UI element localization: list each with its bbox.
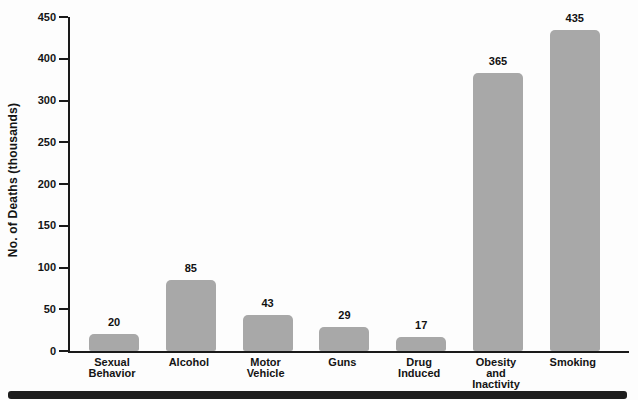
y-axis-tick bbox=[59, 225, 68, 227]
y-axis-tick bbox=[59, 308, 68, 310]
bar-smoking bbox=[550, 30, 600, 351]
bar-value-label-sexual-behavior: 20 bbox=[84, 317, 144, 328]
bar-value-label-motor-vehicle: 43 bbox=[238, 298, 298, 309]
category-label-guns: Guns bbox=[300, 357, 384, 368]
bar-value-label-alcohol: 85 bbox=[161, 263, 221, 274]
y-axis-tick-label: 450 bbox=[22, 12, 56, 23]
bar-chart-figure: No. of Deaths (thousands) 45040030025020… bbox=[0, 0, 638, 400]
y-axis-tick bbox=[59, 141, 68, 143]
bar-value-label-smoking: 435 bbox=[545, 13, 605, 24]
y-axis-tick-label: 50 bbox=[22, 304, 56, 315]
y-axis-tick-label: 100 bbox=[22, 262, 56, 273]
y-axis-tick-label: 200 bbox=[22, 179, 56, 190]
category-label-motor-vehicle: MotorVehicle bbox=[224, 357, 308, 379]
y-axis-tick-label: 0 bbox=[22, 346, 56, 357]
y-axis-tick-label: 150 bbox=[22, 220, 56, 231]
bar-obesity-and-inactivity bbox=[473, 73, 523, 351]
category-label-drug-induced: DrugInduced bbox=[377, 357, 461, 379]
bar-alcohol bbox=[166, 280, 216, 351]
category-label-smoking: Smoking bbox=[531, 357, 615, 368]
y-axis-tick-label: 300 bbox=[22, 95, 56, 106]
bar-value-label-obesity-and-inactivity: 365 bbox=[468, 56, 528, 67]
y-axis-tick bbox=[59, 58, 68, 60]
plot-area: 4504003002502001501005002085432917365435 bbox=[68, 17, 629, 353]
y-axis-tick bbox=[59, 16, 68, 18]
bar-motor-vehicle bbox=[243, 315, 293, 351]
category-label-sexual-behavior: SexualBehavior bbox=[70, 357, 154, 379]
category-label-alcohol: Alcohol bbox=[147, 357, 231, 368]
category-label-obesity-and-inactivity: ObesityandInactivity bbox=[454, 357, 538, 390]
bar-sexual-behavior bbox=[89, 334, 139, 351]
y-axis-tick bbox=[59, 350, 68, 352]
y-axis-tick bbox=[59, 183, 68, 185]
y-axis-tick-label: 250 bbox=[22, 137, 56, 148]
y-axis-tick bbox=[59, 100, 68, 102]
y-axis-tick-label: 400 bbox=[22, 53, 56, 64]
bar-drug-induced bbox=[396, 337, 446, 351]
footer-black-bar bbox=[8, 391, 627, 399]
y-axis-tick bbox=[59, 267, 68, 269]
bar-value-label-drug-induced: 17 bbox=[391, 320, 451, 331]
y-axis-title: No. of Deaths (thousands) bbox=[6, 70, 22, 290]
bar-guns bbox=[319, 327, 369, 351]
bar-value-label-guns: 29 bbox=[314, 310, 374, 321]
